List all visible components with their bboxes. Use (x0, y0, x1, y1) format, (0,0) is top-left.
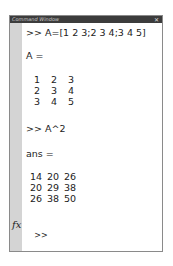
matrix-row: 2 3 4 (23, 85, 74, 96)
output-label-a: A = (26, 50, 43, 61)
matrix-cell: 3 (23, 96, 40, 107)
fx-icon[interactable]: fx (12, 219, 21, 230)
input-prompt: >> (34, 231, 47, 240)
matrix-cell: 3 (40, 85, 57, 96)
matrix-cell: 26 (25, 193, 42, 204)
matrix-row: 14 20 26 (25, 171, 76, 182)
matrix-cell: 2 (40, 74, 57, 85)
matrix-row: 26 38 50 (25, 193, 76, 204)
left-gutter (10, 23, 22, 251)
matrix-cell: 38 (42, 193, 59, 204)
command-line-2: >> A^2 (26, 123, 65, 134)
matrix-cell: 29 (42, 182, 59, 193)
command-input[interactable]: >> (24, 219, 48, 252)
matrix-cell: 26 (59, 171, 76, 182)
matrix-row: 3 4 5 (23, 96, 74, 107)
matrix-a: 1 2 3 2 3 4 3 4 5 (23, 74, 74, 107)
command-line-1: >> A=[1 2 3;2 3 4;3 4 5] (26, 27, 146, 38)
window-title: Command Window (12, 15, 59, 23)
matrix-cell: 3 (57, 74, 74, 85)
close-icon[interactable]: ✕ (154, 16, 159, 22)
matrix-cell: 20 (42, 171, 59, 182)
matrix-row: 20 29 38 (25, 182, 76, 193)
matrix-cell: 1 (23, 74, 40, 85)
matrix-ans: 14 20 26 20 29 38 26 38 50 (25, 171, 76, 204)
matrix-cell: 2 (23, 85, 40, 96)
matrix-cell: 5 (57, 96, 74, 107)
matrix-cell: 38 (59, 182, 76, 193)
matrix-cell: 4 (40, 96, 57, 107)
command-window: Command Window ✕ >> A=[1 2 3;2 3 4;3 4 5… (9, 15, 163, 252)
output-label-ans: ans = (26, 148, 54, 159)
matrix-cell: 50 (59, 193, 76, 204)
matrix-cell: 4 (57, 85, 74, 96)
matrix-cell: 14 (25, 171, 42, 182)
matrix-cell: 20 (25, 182, 42, 193)
matrix-row: 1 2 3 (23, 74, 74, 85)
title-bar: Command Window ✕ (10, 16, 162, 23)
